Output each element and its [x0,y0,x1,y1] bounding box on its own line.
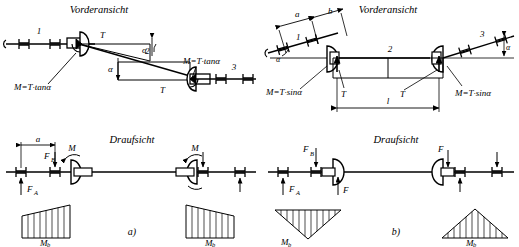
dimension-label-a: a [295,9,300,19]
dim-extension-b-end [341,13,347,36]
coupling-hub-right [176,168,194,176]
panel-a-caption: a) [128,226,137,238]
force-label-F-left: F [342,185,349,195]
moment-diagram-b-left: M b [275,210,341,247]
panel-a-top-view-title: Draufsicht [109,134,156,145]
force-label-FB: F [43,151,50,161]
dimension-label-a: a [36,134,41,144]
panel-a-front-view-title: Vorderansicht [70,4,130,15]
panel-b-caption: b) [392,226,401,238]
shaft-label-2: 2 [388,44,393,54]
moment-sub-Mb: b [47,241,51,247]
coupling-hub-left [322,168,335,176]
moment-formula-right: M=T·tanα [182,56,220,66]
panel-b-top-view-title: Draufsicht [373,134,420,145]
leader-line-T-left [339,70,344,88]
moment-formula-left: M=T·tanα [13,82,51,92]
force-sub-FB: B [310,150,314,157]
force-label-FA: F [288,184,295,194]
angle-label-left: α [276,55,281,64]
torque-label-right: T [400,89,406,99]
force-sub-FA: A [295,189,300,196]
figure-root: Vorderansicht 1 T α M=T·tanα 2 α [0,0,519,247]
moment-area-outline [275,210,341,239]
dimension-label-l: l [387,96,390,106]
torque-label-left: T [100,30,106,40]
moment-formula-right: M=T·sinα [454,88,491,98]
force-label-F-right: F [437,144,444,154]
moment-sub-Mb: b [473,241,477,247]
shaft-3-axis [443,36,514,58]
moment-diagram-b-right: M b [442,209,508,247]
shaft-label-3: 3 [479,29,485,39]
moment-formula-left: M=T·sinα [265,87,302,97]
panel-b-top-view: Draufsicht F B F A F F [268,134,514,196]
force-label-FA: F [26,184,33,194]
torque-label-left: T [341,89,347,99]
moment-sub-Mb: b [288,241,292,247]
coupling-hub-left [74,168,92,176]
moment-diagram-a-left: M b [22,205,70,247]
shaft-label-3: 3 [231,62,237,72]
angle-arc-1 [154,44,156,52]
leader-line-moment-left [48,53,76,84]
leader-line-moment-left [300,66,327,89]
panel-b-front-view-title: Vorderansicht [359,4,419,15]
shaft-1-end-cap [4,40,6,48]
moment-sub-Mb: b [212,241,216,247]
panel-a-top-view: Draufsicht a F B F A M M [6,134,256,196]
shaft-label-1: 1 [37,26,42,36]
moment-label-right: M [190,143,199,153]
leader-line-moment-right [447,66,462,86]
angle-label-2: α [108,64,113,74]
dimension-label-b: b [328,6,333,16]
moment-arc-right-lower [188,186,202,189]
shaft-label-1: 1 [296,32,301,42]
panel-a-front-view: Vorderansicht 1 T α M=T·tanα 2 α [4,4,256,95]
moment-arc-right [188,155,202,158]
shaft-1-end-cap [265,49,268,57]
force-sub-FA: A [33,189,38,196]
moment-area-outline [442,209,508,238]
moment-arc-left [66,155,80,158]
panel-b-front-view: Vorderansicht 1 a b α T [265,4,514,112]
moment-diagram-a-right: M b [186,205,234,247]
force-sub-FB: B [51,156,55,163]
angle-label-right: α [506,43,511,52]
shaft-label-2: 2 [145,46,150,56]
coupling-hub-right [441,168,454,176]
torque-label-right: T [160,85,166,95]
shaft-2-axis [79,44,190,76]
engineering-drawing: Vorderansicht 1 T α M=T·tanα 2 α [0,0,519,247]
leader-line-T-right [404,70,437,90]
force-label-FB: F [302,144,309,154]
moment-label-left: M [67,143,76,153]
